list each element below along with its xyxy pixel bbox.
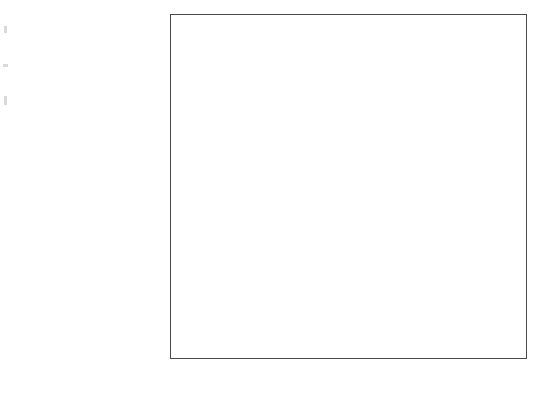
scan-artifact [4,26,7,33]
bar-chart-figure [0,0,545,414]
category-axis-labels [8,14,170,359]
axis-break-zigzag-icon [171,15,201,37]
plot-area [170,14,527,359]
scan-artifact [4,96,7,105]
x-axis-tick-labels [170,362,527,378]
